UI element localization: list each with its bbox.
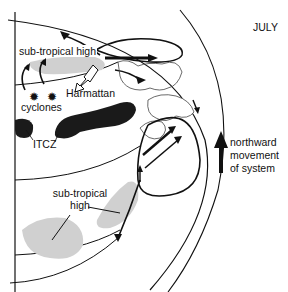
legend-line-2: movement [230,149,279,162]
legend-line-3: of system [230,162,279,175]
latitude-line-s1 [15,146,140,180]
subtropical-high-south-area-1 [22,218,83,259]
label-cyclones: cyclones [21,101,62,113]
label-harmattan: Harmattan [66,87,115,99]
itcz-band-main [55,102,136,138]
label-subtropical-high-north: sub-tropical high [18,45,97,57]
legend-line-1: northward [230,136,279,149]
arrow-up-icon [214,131,228,173]
northeast-arrow-2 [145,140,178,168]
label-subtropical-high-south-line2: high [50,199,110,211]
circulation-loop-south [138,118,200,196]
label-subtropical-high-south: sub-tropical high [50,187,110,211]
globe-outer-rim [168,10,224,292]
eastward-arrow-thin [115,70,140,80]
cloud-outline-2 [148,95,194,121]
cloud-outline-1 [118,61,182,90]
month-label: JULY [253,21,278,33]
legend-text: northward movement of system [230,136,279,175]
northeast-arrow-1 [143,130,172,155]
itcz-band-left [15,119,33,138]
label-itcz: ITCZ [33,138,56,150]
label-subtropical-high-south-line1: sub-tropical [50,187,110,199]
